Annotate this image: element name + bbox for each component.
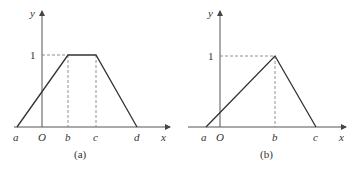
- origin-label: O: [216, 131, 224, 143]
- point-b: b: [272, 131, 278, 143]
- point-d: d: [134, 131, 140, 143]
- y-axis-label: y: [207, 7, 213, 19]
- y-axis-label: y: [29, 7, 35, 19]
- triangle-curve: [206, 56, 316, 127]
- y-tick-1: 1: [208, 50, 214, 62]
- point-c: c: [313, 131, 318, 143]
- graph-a-trapezoid: y 1 a O b c d x (a): [13, 7, 170, 161]
- figure: y 1 a O b c d x (a) y 1 a O b c x (b): [0, 0, 354, 170]
- point-a: a: [13, 131, 19, 143]
- caption-b: (b): [260, 148, 273, 161]
- x-axis-label: x: [338, 131, 344, 143]
- y-tick-1: 1: [30, 49, 36, 61]
- origin-label: O: [38, 131, 46, 143]
- x-axis-label: x: [160, 131, 166, 143]
- point-c: c: [93, 131, 98, 143]
- caption-a: (a): [74, 148, 87, 161]
- point-b: b: [65, 131, 71, 143]
- trapezoid-curve: [17, 55, 137, 127]
- graph-b-triangle: y 1 a O b c x (b): [188, 7, 346, 161]
- point-a: a: [201, 131, 207, 143]
